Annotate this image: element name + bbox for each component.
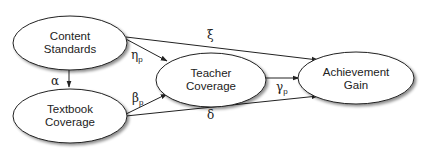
label-line: Achievement bbox=[301, 66, 411, 79]
edge-label-delta: δ bbox=[207, 108, 214, 122]
edge-label-alpha: α bbox=[51, 74, 59, 88]
label-line: Textbook bbox=[15, 103, 125, 116]
label-line: Standards bbox=[15, 43, 125, 56]
edge-label-eta: ηp bbox=[131, 48, 143, 64]
label-line: Coverage bbox=[15, 116, 125, 129]
edge-beta bbox=[124, 94, 167, 115]
label-line: Teacher bbox=[156, 67, 266, 80]
label-line: Gain bbox=[301, 79, 411, 92]
label-line: Content bbox=[15, 30, 125, 43]
edge-label-beta: βp bbox=[132, 91, 143, 107]
edge-label-gamma: γp bbox=[276, 80, 288, 96]
label-content-standards: Content Standards bbox=[15, 30, 125, 56]
label-line: Coverage bbox=[156, 80, 266, 93]
label-achievement-gain: Achievement Gain bbox=[301, 66, 411, 92]
label-textbook-coverage: Textbook Coverage bbox=[15, 103, 125, 129]
label-teacher-coverage: Teacher Coverage bbox=[156, 67, 266, 93]
edge-label-xi: ξ bbox=[207, 28, 214, 42]
